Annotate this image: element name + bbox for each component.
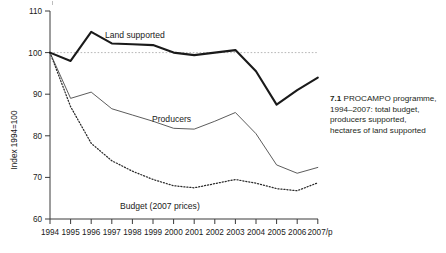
x-tick-label: 2004 bbox=[247, 228, 266, 237]
y-tick-label: 100 bbox=[28, 49, 42, 58]
caption-text: PROCAMPO programme, 1994–2007: total bud… bbox=[330, 94, 437, 135]
y-tick-label: 70 bbox=[33, 173, 43, 182]
x-tick-label: 1995 bbox=[61, 228, 80, 237]
y-axis-title: Index 1994=100 bbox=[10, 110, 19, 169]
series-label-budget: Budget (2007 prices) bbox=[120, 201, 200, 211]
series-label-land: Land supported bbox=[105, 30, 165, 40]
figure-container: 60 70 80 90 100 110 Index 1994=100 bbox=[0, 0, 446, 253]
x-tick-label: 1994 bbox=[41, 228, 60, 237]
series-label-producers: Producers bbox=[152, 114, 191, 124]
x-tick-label: 2001 bbox=[185, 228, 204, 237]
x-tick-marks bbox=[50, 219, 318, 224]
x-tick-label: 2000 bbox=[164, 228, 183, 237]
x-tick-label: 1998 bbox=[123, 228, 142, 237]
x-tick-labels: 1994 1995 1996 1997 1998 1999 2000 2001 … bbox=[41, 228, 333, 237]
figure-caption: 7.1 PROCAMPO programme, 1994–2007: total… bbox=[330, 94, 438, 136]
x-tick-label: 2007/p bbox=[307, 228, 332, 237]
y-tick-marks bbox=[45, 11, 50, 219]
x-tick-label: 2003 bbox=[226, 228, 245, 237]
x-tick-label: 1999 bbox=[144, 228, 163, 237]
x-tick-label: 2005 bbox=[267, 228, 286, 237]
series-line-land bbox=[50, 32, 318, 105]
x-tick-label: 1997 bbox=[103, 228, 122, 237]
x-tick-label: 2006 bbox=[288, 228, 307, 237]
y-tick-labels: 60 70 80 90 100 110 bbox=[28, 7, 42, 224]
x-tick-label: 1996 bbox=[82, 228, 101, 237]
x-tick-label: 2002 bbox=[206, 228, 225, 237]
y-tick-label: 60 bbox=[33, 215, 43, 224]
y-tick-label: 80 bbox=[33, 132, 43, 141]
y-tick-label: 110 bbox=[29, 7, 42, 16]
caption-number: 7.1 bbox=[330, 94, 341, 103]
series-line-producers bbox=[50, 53, 318, 174]
y-tick-label: 90 bbox=[33, 90, 43, 99]
